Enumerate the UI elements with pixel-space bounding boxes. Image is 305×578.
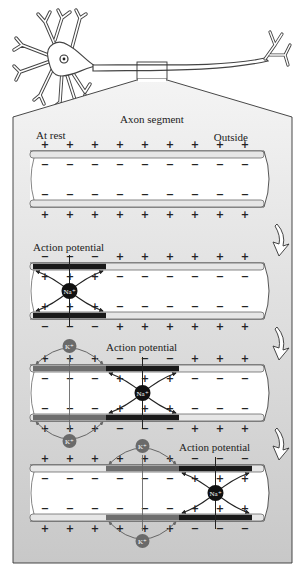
charge-outside-top: + [66, 139, 74, 150]
charge-inside-bottom: + [41, 301, 49, 312]
charge-inside-top: − [91, 473, 99, 484]
sodium-ion-label: Na⁺ [63, 288, 75, 296]
charge-inside-top: − [66, 159, 74, 170]
charge-inside-bottom: − [141, 301, 149, 312]
charge-outside-bottom: + [216, 209, 224, 220]
charge-inside-bottom: − [116, 301, 124, 312]
charge-outside-top: + [91, 353, 99, 364]
charge-outside-bottom: − [91, 321, 99, 332]
charge-outside-top: + [216, 139, 224, 150]
potassium-ion-label: K⁺ [138, 443, 147, 451]
charge-inside-bottom: − [66, 403, 74, 414]
charge-outside-top: + [91, 139, 99, 150]
charge-outside-top: + [91, 453, 99, 464]
label-action-potential: Action potential [179, 441, 250, 453]
charge-inside-bottom: + [216, 503, 224, 514]
charge-outside-top: + [166, 139, 174, 150]
charge-outside-bottom: + [91, 523, 99, 534]
charge-outside-top: + [191, 251, 199, 262]
charge-outside-top: + [241, 139, 249, 150]
charge-outside-top: + [216, 251, 224, 262]
charge-outside-bottom: + [66, 423, 74, 434]
charge-inside-bottom: − [41, 189, 49, 200]
axon-action-potential-diagram: Axon segment At rest Outside Inside +−−+… [0, 0, 305, 578]
charge-inside-bottom: − [241, 189, 249, 200]
charge-outside-bottom: − [166, 423, 174, 434]
charge-outside-bottom: − [216, 523, 224, 534]
charge-inside-bottom: − [166, 189, 174, 200]
charge-inside-top: − [241, 159, 249, 170]
charge-inside-top: − [66, 373, 74, 384]
charge-inside-bottom: − [191, 189, 199, 200]
charge-outside-top: + [241, 251, 249, 262]
charge-outside-top: + [141, 139, 149, 150]
charge-inside-top: − [116, 159, 124, 170]
charge-outside-top: + [116, 251, 124, 262]
charge-inside-top: − [166, 159, 174, 170]
charge-outside-bottom: − [241, 523, 249, 534]
sodium-ion-label: Na⁺ [136, 390, 148, 398]
charge-inside-bottom: − [191, 301, 199, 312]
charge-inside-bottom: − [116, 189, 124, 200]
potassium-ion-label: K⁺ [138, 538, 147, 546]
charge-outside-bottom: + [141, 321, 149, 332]
axon [93, 58, 268, 71]
charge-outside-top: + [216, 353, 224, 364]
potassium-ion-label: K⁺ [65, 438, 74, 446]
charge-inside-top: − [191, 373, 199, 384]
charge-outside-top: + [191, 353, 199, 364]
charge-outside-bottom: + [191, 321, 199, 332]
charge-outside-bottom: + [166, 209, 174, 220]
charge-inside-top: − [241, 271, 249, 282]
charge-outside-bottom: + [191, 209, 199, 220]
charge-inside-bottom: − [166, 503, 174, 514]
charge-inside-top: + [116, 373, 124, 384]
charge-inside-top: − [41, 373, 49, 384]
charge-outside-top: + [41, 453, 49, 464]
charge-outside-bottom: + [141, 209, 149, 220]
charge-inside-top: − [241, 373, 249, 384]
charge-outside-bottom: + [241, 321, 249, 332]
charge-outside-top: + [141, 251, 149, 262]
charge-inside-bottom: − [241, 403, 249, 414]
charge-outside-bottom: + [116, 209, 124, 220]
charge-outside-top: − [91, 251, 99, 262]
charge-inside-bottom: − [91, 189, 99, 200]
charge-inside-top: − [66, 473, 74, 484]
charge-inside-bottom: − [216, 403, 224, 414]
charge-inside-top: − [91, 159, 99, 170]
charge-inside-top: + [216, 473, 224, 484]
charge-outside-top: − [191, 453, 199, 464]
charge-inside-top: − [141, 271, 149, 282]
charge-outside-top: − [41, 251, 49, 262]
charge-outside-top: − [116, 353, 124, 364]
charge-inside-bottom: − [91, 503, 99, 514]
charge-outside-top: − [216, 453, 224, 464]
charge-outside-bottom: − [116, 423, 124, 434]
charge-outside-bottom: + [216, 321, 224, 332]
sodium-ion-label: Na⁺ [209, 490, 221, 498]
panel-title: Axon segment [120, 113, 184, 125]
charge-inside-top: − [216, 373, 224, 384]
charge-inside-bottom: − [66, 503, 74, 514]
charge-inside-top: − [191, 271, 199, 282]
charge-inside-top: − [41, 159, 49, 170]
charge-outside-bottom: + [166, 321, 174, 332]
charge-outside-bottom: + [41, 209, 49, 220]
charge-outside-bottom: + [216, 423, 224, 434]
charge-inside-bottom: − [116, 503, 124, 514]
charge-outside-bottom: + [91, 423, 99, 434]
charge-inside-bottom: − [66, 189, 74, 200]
charge-outside-top: − [166, 353, 174, 364]
charge-inside-top: − [166, 473, 174, 484]
charge-inside-top: − [216, 271, 224, 282]
charge-inside-bottom: − [216, 301, 224, 312]
charge-outside-bottom: + [66, 209, 74, 220]
charge-outside-top: + [241, 353, 249, 364]
charge-outside-bottom: + [66, 523, 74, 534]
charge-inside-bottom: − [216, 189, 224, 200]
membrane-top [30, 151, 264, 158]
charge-outside-bottom: + [91, 209, 99, 220]
charge-inside-bottom: − [191, 403, 199, 414]
charge-outside-top: + [116, 139, 124, 150]
